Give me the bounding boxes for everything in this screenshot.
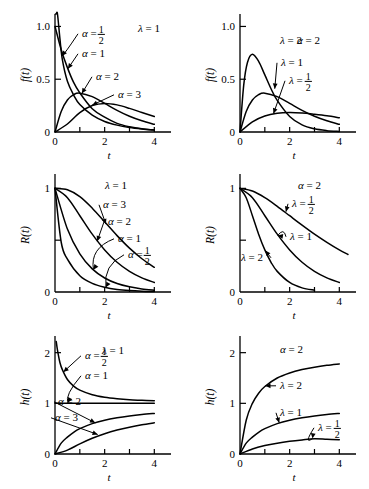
y-axis-label: f(t): [204, 68, 217, 82]
x-axis-label: t: [107, 149, 111, 161]
series-label: α = 1: [82, 47, 105, 59]
fraction-numerator: 1: [99, 24, 104, 35]
fraction-denominator: 2: [309, 205, 314, 216]
x-axis-label: t: [107, 471, 111, 483]
x-tick-label: 4: [152, 135, 158, 147]
fraction-denominator: 2: [102, 357, 107, 368]
y-tick-label: 1.0: [221, 20, 235, 32]
y-tick-label: 0.5: [36, 73, 50, 85]
annotations: α =12α = 1α = 2α = 3: [62, 24, 142, 106]
annotation-arrowhead: [97, 236, 102, 242]
x-tick-label: 2: [102, 295, 108, 307]
x-tick-label: 2: [102, 135, 108, 147]
fraction-denominator: 2: [145, 256, 150, 267]
x-tick-label: 0: [237, 457, 243, 469]
y-tick-label: 1: [45, 397, 51, 409]
x-tick-label: 0: [237, 295, 243, 307]
series-label: λ =: [317, 421, 332, 433]
y-axis-label: R(t): [204, 226, 217, 245]
fraction-numerator: 1: [335, 418, 340, 429]
fixed-parameter-label: α = 2: [298, 179, 321, 191]
fixed-parameter-label: λ = 1: [137, 22, 160, 34]
series-label: λ = 2: [279, 34, 302, 46]
annotation-arrowhead: [311, 433, 316, 438]
series-label: α =: [128, 248, 143, 260]
x-tick-label: 4: [337, 457, 343, 469]
y-tick-label: 1: [45, 182, 51, 194]
y-tick-label: 2: [45, 347, 51, 359]
x-tick-label: 2: [102, 457, 108, 469]
series-label: λ = 2: [279, 379, 302, 391]
y-tick-label: 0: [230, 286, 236, 298]
fraction-numerator: 1: [306, 71, 311, 82]
x-tick-label: 4: [337, 295, 343, 307]
y-tick-label: 0: [45, 448, 51, 460]
x-tick-label: 4: [337, 135, 343, 147]
annotation-arrowhead: [93, 264, 98, 270]
y-tick-label: 0: [230, 126, 236, 138]
x-tick-label: 2: [287, 295, 293, 307]
fraction-denominator: 2: [99, 35, 104, 46]
panel-density-alpha: 02400.51.0tf(t)λ = 1α =12α = 1α = 2α = 3: [0, 4, 185, 162]
fraction-denominator: 2: [335, 429, 340, 440]
x-axis-label: t: [292, 149, 296, 161]
x-axis-label: t: [107, 309, 111, 321]
x-tick-label: 0: [52, 457, 58, 469]
panel-reliability-lambda: 02401tR(t)α = 2λ =12λ = 1λ = 2: [185, 164, 369, 322]
series-label: α = 2: [96, 70, 119, 82]
annotations: λ = 2λ = 1λ =12: [265, 379, 341, 440]
x-axis-label: t: [292, 471, 296, 483]
panel-hazard-lambda: 024012th(t)α = 2λ = 2λ = 1λ =12: [185, 326, 369, 489]
fixed-parameter-label: α = 2: [280, 343, 303, 355]
y-axis-label: f(t): [19, 68, 32, 82]
y-tick-label: 0.5: [221, 73, 235, 85]
y-tick-label: 1.0: [36, 20, 50, 32]
series-label: λ =: [288, 74, 303, 86]
series-label: λ =: [291, 197, 306, 209]
annotation-arrowhead: [275, 417, 280, 423]
y-tick-label: 0: [45, 126, 51, 138]
x-tick-label: 0: [52, 295, 58, 307]
series-label: α = 3: [103, 198, 126, 210]
annotation-arrowhead: [285, 206, 290, 212]
y-tick-label: 0: [230, 448, 236, 460]
fraction-numerator: 1: [145, 245, 150, 256]
fraction-numerator: 1: [309, 194, 314, 205]
annotation-arrowhead: [68, 63, 73, 69]
x-tick-label: 0: [52, 135, 58, 147]
annotation-arrowhead: [273, 83, 278, 88]
series-label: λ = 1: [280, 56, 303, 68]
x-tick-label: 0: [237, 135, 243, 147]
series-label: λ = 2: [240, 251, 263, 263]
axes: 024012: [230, 336, 357, 469]
gamma-distribution-figure: 02400.51.0tf(t)λ = 1α =12α = 1α = 2α = 3…: [0, 0, 369, 489]
x-tick-label: 4: [152, 457, 158, 469]
series-label: α = 1: [85, 369, 108, 381]
annotation-arrowhead: [92, 430, 98, 435]
series-label: α =: [85, 349, 100, 361]
x-tick-label: 4: [152, 295, 158, 307]
x-tick-label: 2: [287, 135, 293, 147]
fixed-parameter-label: λ = 1: [104, 179, 127, 191]
series-label: α = 1: [118, 232, 141, 244]
x-tick-label: 2: [287, 457, 293, 469]
x-axis-label: t: [292, 309, 296, 321]
y-tick-label: 1: [230, 182, 236, 194]
fraction-numerator: 1: [102, 346, 107, 357]
fraction-denominator: 2: [306, 82, 311, 93]
y-tick-label: 1: [230, 397, 236, 409]
y-tick-label: 0: [45, 286, 51, 298]
annotation-arrowhead: [106, 282, 111, 288]
series-label: α = 2: [108, 215, 131, 227]
series-label: α =: [82, 27, 97, 39]
series-label: α = 3: [55, 411, 78, 423]
panel-hazard-alpha: 024012th(t)λ = 1α =12α = 1α = 2α = 3: [0, 326, 185, 489]
panel-density-lambda: 02400.51.0tf(t)α = 2λ = 2λ = 1λ =12: [185, 4, 369, 162]
panel-reliability-alpha: 02401tR(t)λ = 1α = 3α = 2α = 1α =12: [0, 164, 185, 322]
y-axis-label: R(t): [19, 226, 32, 245]
y-axis-label: h(t): [204, 389, 217, 406]
y-axis-label: h(t): [19, 389, 32, 406]
series-label: α = 3: [118, 88, 141, 100]
annotations: λ =12λ = 1λ = 2: [240, 194, 315, 264]
series-label: λ = 1: [279, 406, 302, 418]
